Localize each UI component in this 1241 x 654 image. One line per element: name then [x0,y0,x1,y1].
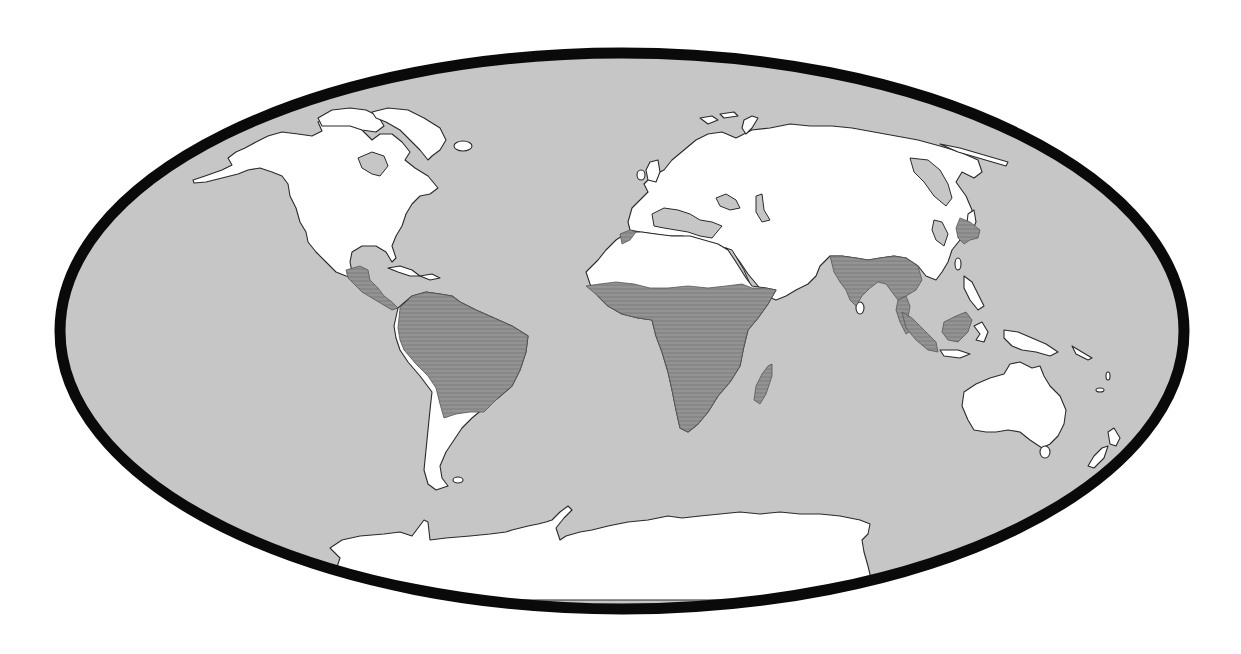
new-caledonia [1096,388,1104,392]
falkland-islands [453,477,463,483]
world-map [0,0,1241,654]
taiwan [955,258,961,270]
iceland [454,141,472,151]
map-canvas [0,0,1241,654]
ireland [637,170,645,180]
tasmania [1040,446,1050,458]
vanuatu [1106,372,1110,380]
